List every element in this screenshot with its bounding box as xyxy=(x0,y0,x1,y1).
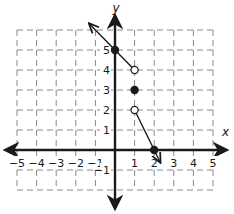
y-tick-label: 4 xyxy=(103,64,110,77)
x-tick-label: 2 xyxy=(151,157,158,170)
curve-left-piece xyxy=(90,24,135,70)
y-tick-label: 2 xyxy=(103,104,110,117)
y-tick-label: 5 xyxy=(103,44,110,57)
closed-point xyxy=(151,146,158,153)
x-axis-label: x xyxy=(221,125,230,139)
x-tick-label: 1 xyxy=(131,157,138,170)
y-tick-label: 1 xyxy=(103,124,110,137)
x-tick-label: −5 xyxy=(9,157,25,170)
closed-point xyxy=(111,46,118,53)
x-tick-label: −4 xyxy=(28,157,44,170)
x-tick-label: 5 xyxy=(210,157,217,170)
curve-right-piece xyxy=(135,110,160,162)
open-point xyxy=(131,66,138,73)
open-point xyxy=(131,106,138,113)
x-tick-label: 3 xyxy=(170,157,177,170)
x-tick-label: −3 xyxy=(48,157,64,170)
y-axis-label: y xyxy=(111,1,120,15)
y-tick-label: −1 xyxy=(94,164,110,177)
x-tick-label: −2 xyxy=(68,157,84,170)
y-tick-label: 3 xyxy=(103,84,110,97)
closed-point xyxy=(131,86,138,93)
x-tick-label: 4 xyxy=(190,157,197,170)
piecewise-function-graph: −5−4−3−2−112345−112345 x y xyxy=(0,0,234,214)
